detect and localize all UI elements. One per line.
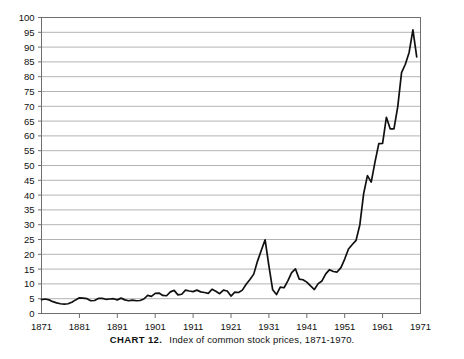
x-tick-label: 1931: [258, 321, 279, 332]
y-axis-tick-labels: 0510152025303540455055606570758085909510…: [19, 12, 35, 319]
x-axis-tick-labels: 1871188118911901191119211931194119511961…: [31, 321, 431, 332]
x-tick-label: 1951: [334, 321, 355, 332]
y-tick-label: 35: [24, 204, 35, 215]
y-tick-label: 65: [24, 116, 35, 127]
x-tick-label: 1871: [31, 321, 52, 332]
y-tick-label: 55: [24, 145, 35, 156]
stock-price-line-chart: 0510152025303540455055606570758085909510…: [0, 0, 464, 359]
data-series-line: [42, 30, 417, 304]
y-tick-label: 30: [24, 219, 35, 230]
x-tick-label: 1911: [183, 321, 203, 332]
y-tick-label: 60: [24, 130, 35, 141]
chart-caption: CHART 12.Index of common stock prices, 1…: [0, 334, 464, 345]
chart-caption-text: Index of common stock prices, 1871-1970.: [169, 334, 354, 345]
y-tick-label: 45: [24, 175, 35, 186]
y-tick-label: 75: [24, 86, 35, 97]
x-axis-tick-marks: [79, 314, 382, 319]
chart-figure: 0510152025303540455055606570758085909510…: [0, 0, 464, 359]
y-tick-label: 50: [24, 160, 35, 171]
y-tick-label: 15: [24, 264, 35, 275]
y-tick-label: 0: [29, 308, 34, 319]
y-tick-label: 95: [24, 27, 35, 38]
y-tick-label: 85: [24, 56, 35, 67]
y-tick-label: 40: [24, 190, 35, 201]
x-tick-label: 1971: [410, 321, 431, 332]
x-tick-label: 1901: [145, 321, 166, 332]
y-tick-label: 20: [24, 249, 35, 260]
x-tick-label: 1891: [107, 321, 128, 332]
y-tick-label: 90: [24, 42, 35, 53]
y-tick-label: 25: [24, 234, 35, 245]
y-tick-label: 10: [24, 278, 35, 289]
y-tick-label: 100: [19, 12, 35, 23]
chart-caption-label: CHART 12.: [110, 334, 163, 345]
y-tick-label: 5: [29, 293, 34, 304]
y-tick-label: 70: [24, 101, 35, 112]
gridlines-group: [38, 18, 421, 314]
x-tick-label: 1881: [69, 321, 90, 332]
y-tick-label: 80: [24, 71, 35, 82]
x-tick-label: 1941: [296, 321, 317, 332]
x-tick-label: 1921: [220, 321, 241, 332]
x-tick-label: 1961: [372, 321, 393, 332]
